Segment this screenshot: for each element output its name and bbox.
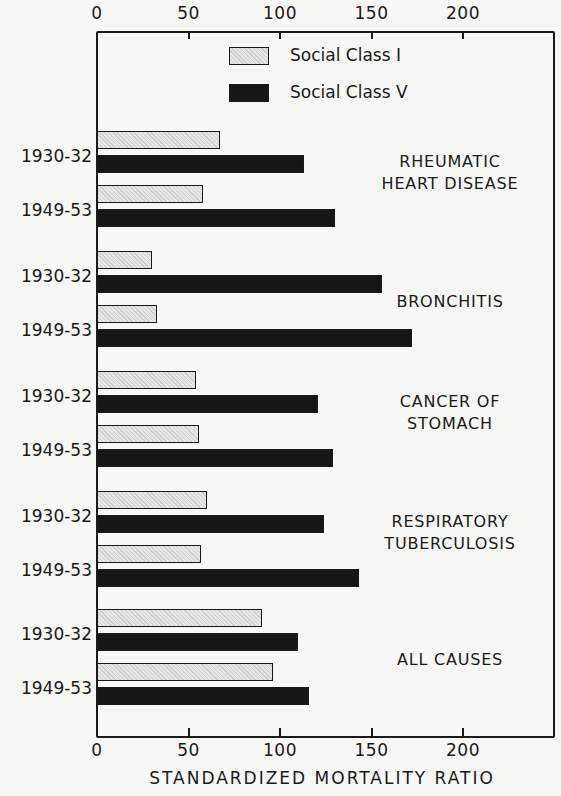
x-tick-label-bottom: 200: [446, 740, 480, 760]
bar-class-1: [97, 131, 220, 149]
x-tick-top: [188, 31, 190, 39]
bar-class-5: [97, 329, 412, 347]
bar-class-5: [97, 275, 382, 293]
x-tick-top: [462, 31, 464, 39]
bar-class-1: [97, 545, 201, 563]
bar-class-5: [97, 155, 304, 173]
x-tick-bottom: [188, 728, 190, 736]
x-tick-bottom: [462, 728, 464, 736]
y-label-period: 1930-32: [0, 506, 92, 526]
bar-class-1: [97, 663, 273, 681]
legend-swatch-class-5: [229, 84, 269, 102]
x-tick-bottom: [371, 728, 373, 736]
y-label-period: 1930-32: [0, 146, 92, 166]
y-label-period: 1949-53: [0, 560, 92, 580]
y-label-period: 1949-53: [0, 440, 92, 460]
y-label-period: 1930-32: [0, 624, 92, 644]
bar-class-5: [97, 687, 309, 705]
category-label: RHEUMATICHEART DISEASE: [350, 151, 550, 195]
x-tick-bottom: [279, 728, 281, 736]
x-tick-label-top: 0: [91, 3, 102, 23]
bar-class-1: [97, 491, 207, 509]
category-label: BRONCHITIS: [350, 291, 550, 313]
x-tick-label-bottom: 150: [355, 740, 389, 760]
y-label-period: 1930-32: [0, 386, 92, 406]
x-tick-label-bottom: 100: [263, 740, 297, 760]
bar-class-1: [97, 251, 152, 269]
legend-swatch-class-1: [229, 47, 269, 65]
x-tick-top: [279, 31, 281, 39]
category-label: RESPIRATORYTUBERCULOSIS: [350, 511, 550, 555]
x-tick-label-bottom: 50: [177, 740, 200, 760]
bar-class-5: [97, 633, 298, 651]
bar-class-5: [97, 569, 359, 587]
legend-label-class-5: Social Class V: [290, 82, 408, 102]
bar-class-1: [97, 609, 262, 627]
bar-class-5: [97, 209, 335, 227]
x-tick-label-top: 150: [355, 3, 389, 23]
category-label: ALL CAUSES: [350, 649, 550, 671]
x-tick-label-top: 200: [446, 3, 480, 23]
x-tick-top: [371, 31, 373, 39]
x-tick-label-top: 100: [263, 3, 297, 23]
bar-class-5: [97, 449, 333, 467]
y-label-period: 1949-53: [0, 320, 92, 340]
x-axis-title: STANDARDIZED MORTALITY RATIO: [97, 768, 547, 788]
bar-class-1: [97, 305, 157, 323]
x-tick-label-top: 50: [177, 3, 200, 23]
category-label: CANCER OFSTOMACH: [350, 391, 550, 435]
y-label-period: 1930-32: [0, 266, 92, 286]
bar-class-1: [97, 425, 199, 443]
legend-label-class-1: Social Class I: [290, 45, 401, 65]
y-label-period: 1949-53: [0, 200, 92, 220]
bar-class-1: [97, 371, 196, 389]
x-tick-label-bottom: 0: [91, 740, 102, 760]
bar-class-5: [97, 515, 324, 533]
bar-class-1: [97, 185, 203, 203]
y-label-period: 1949-53: [0, 678, 92, 698]
bar-class-5: [97, 395, 318, 413]
